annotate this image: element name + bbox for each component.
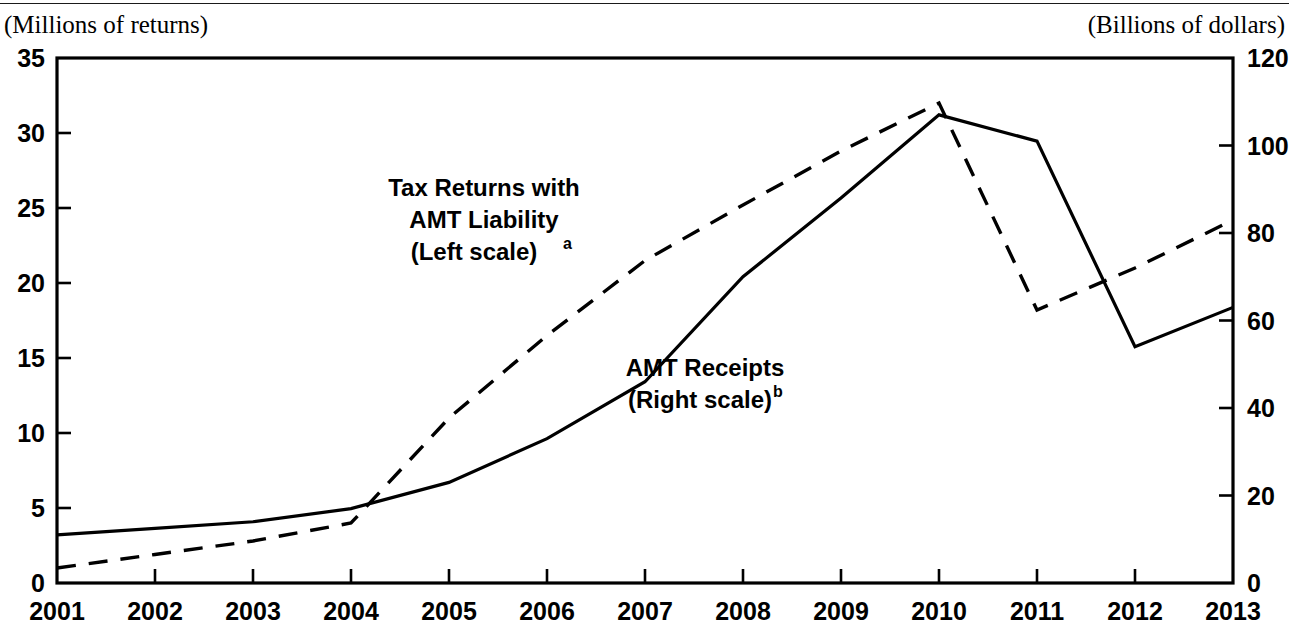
left-tick-label: 25: [17, 194, 45, 222]
annotation-tax-returns-footnote: a: [563, 235, 572, 252]
x-year-label: 2008: [715, 597, 771, 625]
annotation-amt-receipts-footnote: b: [773, 383, 783, 400]
x-axis-year-labels: 2001200220032004200520062007200820092010…: [29, 597, 1261, 625]
right-axis-ticks: [1219, 146, 1233, 496]
left-axis-ticks: [57, 133, 71, 508]
annotation-tax-returns-line1: Tax Returns with: [388, 174, 580, 201]
x-year-label: 2009: [813, 597, 869, 625]
left-axis-tick-labels: 05101520253035: [17, 44, 45, 597]
right-tick-label: 80: [1247, 219, 1275, 247]
left-tick-label: 35: [17, 44, 45, 72]
x-year-label: 2013: [1205, 597, 1261, 625]
left-tick-label: 0: [31, 569, 45, 597]
plot-frame: [57, 58, 1233, 583]
annotation-tax-returns: Tax Returns with AMT Liability (Left sca…: [388, 174, 580, 265]
x-year-label: 2011: [1010, 597, 1064, 625]
annotation-amt-receipts-line2: (Right scale): [628, 386, 772, 413]
x-year-label: 2010: [911, 597, 967, 625]
right-axis-tick-labels: 020406080100120: [1247, 44, 1289, 597]
right-tick-label: 120: [1247, 44, 1289, 72]
x-year-label: 2006: [519, 597, 575, 625]
left-tick-label: 10: [17, 419, 45, 447]
x-year-label: 2003: [225, 597, 281, 625]
annotation-amt-receipts-line1: AMT Receipts: [626, 354, 785, 381]
left-tick-label: 5: [31, 494, 45, 522]
x-year-label: 2004: [323, 597, 379, 625]
right-tick-label: 0: [1247, 569, 1261, 597]
left-tick-label: 30: [17, 119, 45, 147]
amt-chart-figure: (Millions of returns) (Billions of dolla…: [0, 0, 1289, 635]
right-tick-label: 100: [1247, 132, 1289, 160]
x-year-label: 2005: [421, 597, 477, 625]
annotation-tax-returns-line3: (Left scale): [411, 238, 538, 265]
right-tick-label: 20: [1247, 482, 1275, 510]
left-tick-label: 15: [17, 344, 45, 372]
x-axis-ticks: [155, 569, 1135, 583]
x-year-label: 2002: [127, 597, 183, 625]
annotation-amt-receipts: AMT Receipts (Right scale) b: [626, 354, 785, 413]
right-tick-label: 60: [1247, 307, 1275, 335]
x-year-label: 2001: [29, 597, 85, 625]
series-line-amt-receipts: [57, 115, 1233, 535]
chart-plot-area: 05101520253035 020406080100120 200120022…: [0, 0, 1289, 635]
right-tick-label: 40: [1247, 394, 1275, 422]
x-year-label: 2007: [617, 597, 673, 625]
left-tick-label: 20: [17, 269, 45, 297]
annotation-tax-returns-line2: AMT Liability: [409, 206, 559, 233]
series-line-tax-returns-amt-liability: [57, 103, 1233, 568]
x-year-label: 2012: [1107, 597, 1163, 625]
